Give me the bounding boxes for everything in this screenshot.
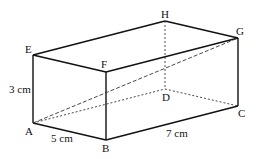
edge-EF: [33, 55, 106, 72]
vertex-label-H: H: [161, 8, 169, 20]
hidden-edges: [33, 21, 238, 123]
vertex-label-A: A: [25, 125, 33, 137]
edge-FG: [106, 38, 238, 72]
vertex-label-G: G: [236, 25, 244, 37]
cuboid-diagram: A B C D E F G H 3 cm 5 cm 7 cm: [0, 0, 259, 159]
vertex-label-E: E: [25, 43, 32, 55]
edge-HG: [165, 21, 238, 38]
diagonal-AG: [33, 38, 238, 123]
dimension-height: 3 cm: [9, 83, 31, 95]
vertex-label-D: D: [162, 91, 170, 103]
dimension-length: 7 cm: [166, 127, 188, 139]
edge-DC: [165, 89, 238, 106]
vertex-label-C: C: [238, 107, 245, 119]
edge-AD: [33, 89, 165, 123]
vertex-label-B: B: [102, 142, 109, 154]
vertex-label-F: F: [101, 58, 107, 70]
edge-EH: [33, 21, 165, 55]
dimension-width: 5 cm: [51, 132, 73, 144]
